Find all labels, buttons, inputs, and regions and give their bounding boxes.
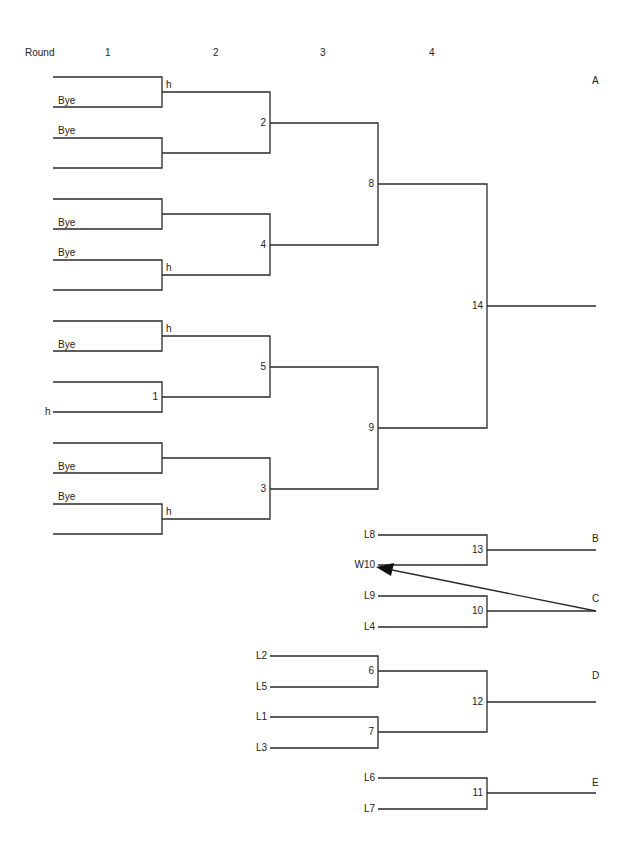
round-4-label: 4 xyxy=(429,48,435,58)
label-l1: L1 xyxy=(232,712,267,722)
match-number-8: 8 xyxy=(356,179,374,189)
bracket-label-d: D xyxy=(592,671,599,681)
round-header-label: Round xyxy=(25,48,54,58)
match-number-10: 10 xyxy=(460,606,483,616)
bye-label: Bye xyxy=(58,492,75,502)
h-label: h xyxy=(166,263,172,273)
match-number-7: 7 xyxy=(356,727,374,737)
h-label: h xyxy=(166,80,172,90)
label-l8: L8 xyxy=(340,530,375,540)
label-l4: L4 xyxy=(340,622,375,632)
match-number-6: 6 xyxy=(356,666,374,676)
label-w10: W10 xyxy=(340,560,375,570)
bracket-label-e: E xyxy=(592,778,599,788)
bye-label: Bye xyxy=(58,248,75,258)
h-label: h xyxy=(166,507,172,517)
label-l6: L6 xyxy=(340,773,375,783)
bye-label: Bye xyxy=(58,218,75,228)
round-2-label: 2 xyxy=(213,48,219,58)
match-number-5: 5 xyxy=(248,362,266,372)
match-number-2: 2 xyxy=(248,118,266,128)
label-l5: L5 xyxy=(232,682,267,692)
h-label: h xyxy=(166,324,172,334)
round-1-label: 1 xyxy=(105,48,111,58)
match-number-14: 14 xyxy=(460,301,483,311)
bye-label: Bye xyxy=(58,96,75,106)
match-number-11: 11 xyxy=(460,788,483,798)
bracket-label-a: A xyxy=(592,76,599,86)
h-label: h xyxy=(45,407,51,417)
match-number-4: 4 xyxy=(248,240,266,250)
match-number-3: 3 xyxy=(248,484,266,494)
match-number-1: 1 xyxy=(140,392,158,402)
bye-label: Bye xyxy=(58,340,75,350)
match-number-9: 9 xyxy=(356,423,374,433)
bracket-label-b: B xyxy=(592,534,599,544)
bracket-lines xyxy=(0,0,633,845)
bye-label: Bye xyxy=(58,462,75,472)
label-l2: L2 xyxy=(232,651,267,661)
label-l3: L3 xyxy=(232,743,267,753)
label-l9: L9 xyxy=(340,591,375,601)
match-number-12: 12 xyxy=(460,697,483,707)
bye-label: Bye xyxy=(58,126,75,136)
match-number-13: 13 xyxy=(460,545,483,555)
bracket-label-c: C xyxy=(592,594,599,604)
label-l7: L7 xyxy=(340,804,375,814)
round-3-label: 3 xyxy=(320,48,326,58)
